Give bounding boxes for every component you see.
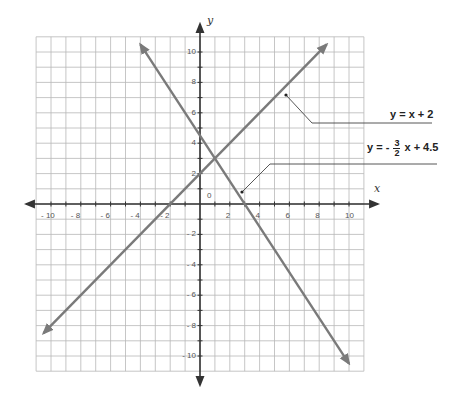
x-tick-label: 8 [315, 211, 319, 220]
y-tick-label: 6 [192, 108, 196, 117]
eq2-denominator: 2 [393, 149, 400, 158]
x-tick-label: - 2 [160, 211, 169, 220]
y-tick-label: 4 [192, 138, 196, 147]
x-tick-label: - 6 [101, 211, 110, 220]
coordinate-plane [0, 0, 460, 408]
y-tick-label: - 8 [187, 321, 196, 330]
equation-label-1: y = x + 2 [390, 108, 433, 120]
x-tick-label: 10 [345, 211, 354, 220]
x-axis-label: x [374, 182, 380, 195]
x-tick-label: - 10 [41, 211, 55, 220]
y-tick-label: - 4 [187, 260, 196, 269]
x-tick-label: 4 [256, 211, 260, 220]
y-tick-label: 2 [192, 169, 196, 178]
x-tick-label: - 4 [130, 211, 139, 220]
y-tick-label: - 2 [187, 229, 196, 238]
eq2-fraction: 32 [393, 139, 400, 158]
y-axis-label: y [207, 14, 213, 27]
y-tick-label: - 6 [187, 290, 196, 299]
y-tick-label: 8 [192, 77, 196, 86]
y-tick-label: - 10 [182, 351, 196, 360]
equation-label-2: y = - 32 x + 4.5 [367, 139, 438, 158]
eq1-text: y = x + 2 [390, 108, 433, 120]
origin-label: 0 [207, 191, 211, 200]
x-tick-label: 2 [226, 211, 230, 220]
eq2-suffix: x + 4.5 [404, 141, 438, 153]
leader-dot-eq2 [240, 190, 243, 193]
x-tick-label: - 8 [71, 211, 80, 220]
x-tick-label: 6 [285, 211, 289, 220]
leader-dot-eq1 [284, 93, 287, 96]
leader-line-eq2 [242, 164, 437, 192]
eq2-prefix: y = - [367, 141, 389, 153]
y-tick-label: 10 [187, 47, 196, 56]
